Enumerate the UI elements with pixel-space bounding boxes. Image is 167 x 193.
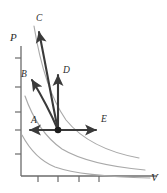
x-axis-label: V <box>151 171 159 183</box>
process-arrow-C <box>39 32 58 130</box>
label-D: D <box>62 65 70 75</box>
label-C: C <box>36 13 43 23</box>
label-E: E <box>100 114 107 124</box>
pv-diagram-figure: P V A B C D E <box>0 0 167 193</box>
label-A: A <box>30 115 37 125</box>
axes-group <box>15 46 157 182</box>
x-axis-ticks <box>38 176 99 182</box>
isotherm-mid <box>25 96 145 170</box>
isotherm-curves <box>22 26 150 178</box>
y-axis-label: P <box>9 31 17 43</box>
state-point <box>55 127 62 134</box>
label-B: B <box>21 69 27 79</box>
